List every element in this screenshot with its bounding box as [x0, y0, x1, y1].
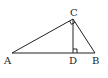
label-b: B: [92, 55, 99, 66]
triangle-diagram: C A D B: [0, 0, 108, 78]
segment-bc: [73, 19, 95, 53]
label-c: C: [70, 7, 78, 18]
segment-ac: [12, 19, 73, 53]
label-d: D: [69, 55, 77, 66]
right-angle-mark-d: [73, 49, 77, 53]
label-a: A: [3, 55, 12, 66]
